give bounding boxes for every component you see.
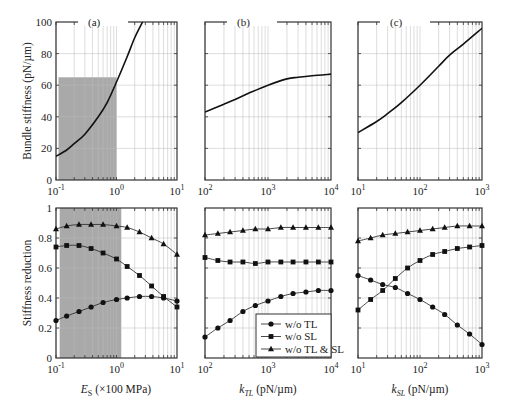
square-marker	[215, 258, 220, 263]
circle-marker	[368, 277, 373, 282]
panel-6: 101102103	[351, 208, 490, 375]
square-marker	[241, 260, 246, 265]
legend-entry: w/o TL	[285, 318, 318, 330]
circle-marker	[265, 298, 270, 303]
square-marker	[114, 257, 119, 262]
panels: (a)02040608010010-1100101(b)102103104(c)…	[36, 16, 490, 375]
circle-marker	[202, 334, 207, 339]
y-tick-label: 0.8	[38, 232, 52, 244]
square-marker	[329, 260, 334, 265]
circle-marker	[290, 291, 295, 296]
x-tick-label: 100	[109, 183, 124, 197]
legend-entry: w/o TL & SL	[285, 343, 344, 355]
square-marker	[380, 288, 385, 293]
circle-marker	[479, 342, 484, 347]
x-tick-label: 10-1	[47, 361, 65, 375]
panel-4: 00.20.40.60.8110-1100101	[38, 202, 184, 375]
shaded-region	[60, 208, 122, 358]
circle-marker	[240, 309, 245, 314]
x-axis-label-b: kTL (pN/µm)	[239, 383, 297, 398]
circle-marker	[64, 313, 69, 318]
triangle-marker	[467, 223, 473, 228]
y-tick-label: 20	[41, 142, 53, 154]
y-tick-label: 80	[41, 48, 53, 60]
x-tick-label: 103	[261, 183, 276, 197]
circle-marker	[380, 282, 385, 287]
square-marker	[89, 246, 94, 251]
shaded-region	[59, 77, 117, 180]
panel-2: (b)102103104	[198, 16, 339, 197]
y-tick-label: 0.4	[38, 292, 52, 304]
square-marker	[266, 260, 271, 265]
circle-marker	[137, 294, 142, 299]
panel-label: (c)	[390, 16, 403, 29]
y-tick-label: 100	[36, 16, 53, 28]
square-marker	[77, 243, 82, 248]
x-tick-label: 100	[109, 361, 124, 375]
square-marker	[253, 261, 258, 266]
x-tick-label: 103	[475, 361, 490, 375]
square-marker	[467, 245, 472, 250]
figure: (a)02040608010010-1100101(b)102103104(c)…	[0, 0, 511, 418]
circle-marker	[328, 288, 333, 293]
square-marker	[455, 246, 460, 251]
circle-marker	[393, 285, 398, 290]
x-tick-label: 101	[351, 361, 366, 375]
circle-marker	[114, 297, 119, 302]
square-marker	[278, 260, 283, 265]
square-marker	[304, 260, 309, 265]
circle-marker	[430, 304, 435, 309]
panel-label: (a)	[88, 16, 101, 29]
square-marker	[54, 245, 59, 250]
triangle-marker	[315, 224, 321, 229]
y-tick-label: 40	[41, 111, 53, 123]
y-tick-label: 60	[41, 79, 53, 91]
circle-marker	[303, 289, 308, 294]
x-tick-label: 101	[351, 183, 366, 197]
square-marker	[125, 264, 130, 269]
circle-marker	[405, 291, 410, 296]
square-marker	[430, 252, 435, 257]
panel-5: 102103104w/o TLw/o SLw/o TL & SL	[198, 208, 345, 375]
square-marker	[64, 243, 69, 248]
triangle-marker	[290, 224, 296, 229]
square-marker	[101, 251, 106, 256]
x-tick-label: 10-1	[47, 183, 65, 197]
circle-marker	[253, 303, 258, 308]
circle-marker	[268, 321, 273, 326]
y-tick-label: 1	[47, 202, 53, 214]
circle-marker	[76, 309, 81, 314]
x-axis-label-a: ES (×100 MPa)	[80, 383, 152, 398]
circle-marker	[149, 294, 154, 299]
triangle-marker	[149, 235, 155, 240]
square-marker	[269, 334, 274, 339]
circle-marker	[174, 298, 179, 303]
circle-marker	[227, 318, 232, 323]
x-tick-label: 104	[324, 361, 339, 375]
circle-marker	[88, 304, 93, 309]
x-tick-label: 102	[198, 361, 213, 375]
square-marker	[137, 273, 142, 278]
x-axis-label-c: kSL (pN/µm)	[392, 383, 449, 398]
panel-3: (c)101102103	[351, 16, 490, 197]
circle-marker	[467, 331, 472, 336]
triangle-marker	[328, 224, 334, 229]
circle-marker	[125, 295, 130, 300]
x-tick-label: 103	[475, 183, 490, 197]
y-tick-label: 0.2	[38, 322, 52, 334]
square-marker	[405, 266, 410, 271]
circle-marker	[316, 288, 321, 293]
square-marker	[149, 284, 154, 289]
x-tick-label: 102	[198, 183, 213, 197]
circle-marker	[455, 322, 460, 327]
square-marker	[175, 305, 180, 310]
triangle-marker	[161, 241, 167, 246]
legend: w/o TLw/o SLw/o TL & SL	[256, 314, 344, 357]
square-marker	[203, 255, 208, 260]
square-marker	[442, 249, 447, 254]
y-tick-label: 0.6	[38, 262, 52, 274]
square-marker	[316, 260, 321, 265]
square-marker	[161, 294, 166, 299]
circle-marker	[53, 318, 58, 323]
circle-marker	[355, 273, 360, 278]
